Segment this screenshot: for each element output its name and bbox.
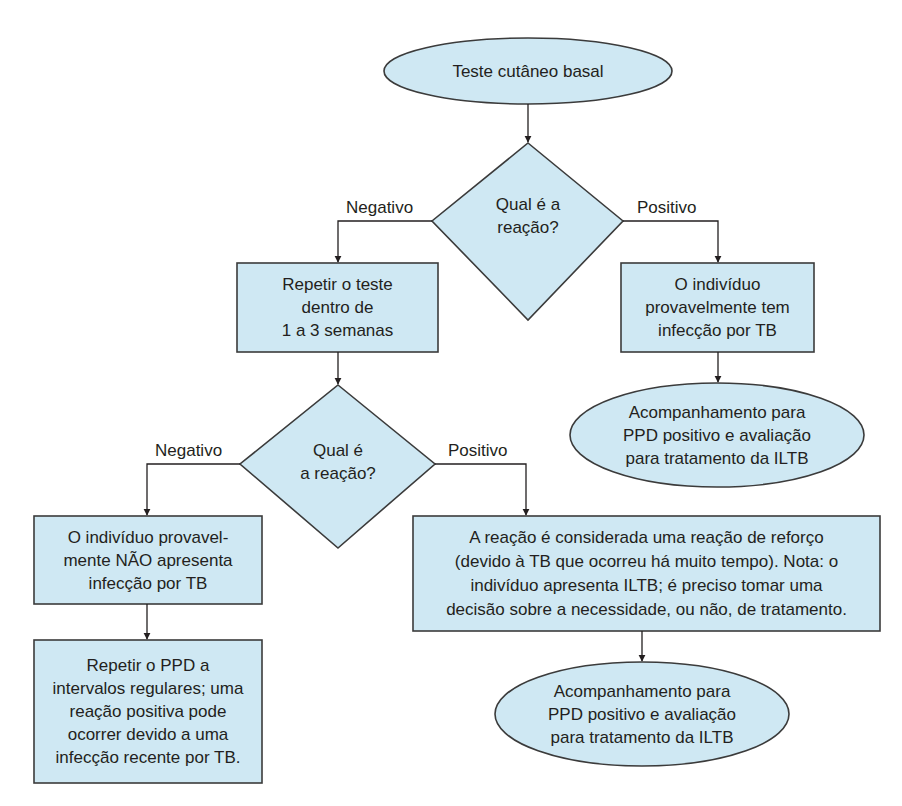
decision1-label: Qual é a reação? [452, 190, 604, 242]
repeat-ppd-label: Repetir o PPD a intervalos regulares; um… [34, 640, 262, 783]
edge-decision2-positive [435, 464, 526, 515]
decision2-label: Qual é a reação? [265, 434, 411, 490]
followup1-label: Acompanhamento para PPD positivo e avali… [575, 393, 859, 477]
edge-decision2-negative [147, 464, 240, 515]
not-infected-label: O indivíduo provavel- mente NÃO apresent… [34, 516, 262, 604]
followup2-label: Acompanhamento para PPD positivo e avali… [500, 672, 784, 756]
edge-label-d1-negative: Negativo [346, 198, 413, 218]
edge-decision1-negative [338, 221, 432, 262]
repeat-test-label: Repetir o teste dentro de 1 a 3 semanas [237, 263, 438, 352]
start-label: Teste cutâneo basal [384, 50, 672, 92]
probably-infected-label: O indivíduo provavelmente tem infecção p… [621, 263, 814, 352]
edge-label-d2-positive: Positivo [448, 441, 508, 461]
booster-label: A reação é considerada uma reação de ref… [413, 516, 880, 631]
edge-decision1-positive [623, 221, 718, 262]
edge-label-d1-positive: Positivo [637, 198, 697, 218]
edge-label-d2-negative: Negativo [155, 441, 222, 461]
tb-skin-test-flowchart: Teste cutâneo basal Qual é a reação? Rep… [0, 0, 902, 806]
